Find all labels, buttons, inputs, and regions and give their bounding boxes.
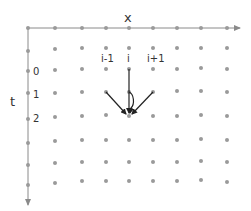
row-label-0: 0 — [33, 66, 39, 77]
grid-points — [26, 26, 229, 187]
row-label-1: 1 — [33, 89, 39, 100]
finite-difference-stencil-diagram: x t i-1 i i+1 0 1 2 — [0, 0, 251, 211]
arrow-from-i-minus-1-t1 — [106, 92, 126, 114]
column-label-i: i — [127, 53, 130, 64]
t-axis-label: t — [10, 94, 15, 109]
row-label-2: 2 — [33, 113, 39, 124]
column-label-i-minus-1: i-1 — [101, 53, 114, 64]
x-axis-label: x — [124, 10, 132, 25]
stencil-arrows — [106, 69, 153, 114]
column-label-i-plus-1: i+1 — [147, 53, 165, 64]
arrow-from-i-plus-1-t1 — [132, 92, 153, 114]
arrow-from-i-t1-loop — [129, 92, 133, 113]
